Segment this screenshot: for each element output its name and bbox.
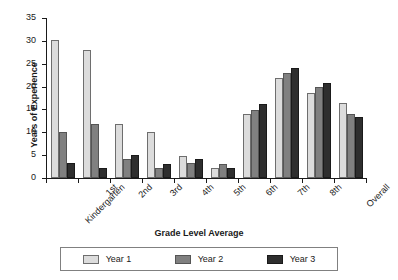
bar: [131, 155, 139, 178]
x-axis-tick-labels: Kindergarten1st2nd3rd4th5th6th7th8thOver…: [46, 182, 366, 234]
bar: [83, 50, 91, 178]
x-axis-tick-label: 8th: [328, 182, 344, 198]
y-axis-tick: 25: [42, 64, 46, 65]
plot-area: 05101520253035: [46, 18, 366, 178]
legend-item[interactable]: Year 2: [175, 254, 224, 264]
x-axis-tick: [366, 179, 367, 183]
x-axis-tick-label: 6th: [264, 182, 280, 198]
bar-group: [339, 18, 363, 178]
x-axis-tick-label: 7th: [296, 182, 312, 198]
bar: [283, 73, 291, 178]
legend-swatch-year-3: [267, 255, 283, 264]
y-axis-tick-label: 10: [16, 126, 36, 136]
bar: [187, 163, 195, 178]
y-axis-tick-label: 25: [16, 58, 36, 68]
bar: [195, 159, 203, 178]
bar-group: [275, 18, 299, 178]
bar: [123, 159, 131, 178]
bar: [115, 124, 123, 178]
bar-chart: Years of Experience 05101520253035 Kinde…: [0, 0, 398, 280]
x-axis-tick-label: Overall: [364, 182, 391, 209]
y-axis-tick-label: 30: [16, 35, 36, 45]
bar-group: [211, 18, 235, 178]
y-axis-tick: 20: [42, 87, 46, 88]
legend-swatch-year-1: [83, 255, 99, 264]
bar: [275, 78, 283, 178]
bar: [99, 168, 107, 179]
bar: [91, 124, 99, 178]
bar: [251, 110, 259, 178]
x-axis-tick-label: 2nd: [136, 182, 154, 200]
bar: [315, 87, 323, 178]
y-axis-tick-label: 20: [16, 81, 36, 91]
legend-item[interactable]: Year 3: [267, 254, 316, 264]
bar: [211, 168, 219, 178]
legend-swatch-year-2: [175, 255, 191, 264]
bar: [147, 132, 155, 178]
bar: [291, 68, 299, 178]
y-axis-tick-label: 15: [16, 103, 36, 113]
y-axis-tick: 35: [42, 18, 46, 19]
x-axis-title: Grade Level Average: [0, 228, 398, 238]
legend: Year 1Year 2Year 3: [60, 247, 338, 271]
legend-item-label: Year 3: [290, 254, 316, 264]
y-axis-tick-label: 5: [16, 149, 36, 159]
legend-item-label: Year 2: [198, 254, 224, 264]
bar: [219, 164, 227, 178]
bar: [67, 163, 75, 178]
bar: [243, 114, 251, 178]
bar: [155, 168, 163, 179]
bar: [323, 83, 331, 178]
y-axis-tick: 10: [42, 132, 46, 133]
bar: [259, 104, 267, 178]
y-axis-tick-label: 0: [16, 172, 36, 182]
bar-group: [115, 18, 139, 178]
y-axis-tick: 5: [42, 155, 46, 156]
bar: [347, 114, 355, 178]
bar-group: [83, 18, 107, 178]
y-axis-tick-label: 35: [16, 12, 36, 22]
bar: [163, 164, 171, 178]
bar: [51, 40, 59, 178]
bar: [179, 156, 187, 178]
x-axis-tick-label: 5th: [232, 182, 248, 198]
bar: [339, 103, 347, 178]
bar-group: [243, 18, 267, 178]
bar: [355, 117, 363, 178]
bar-group: [307, 18, 331, 178]
bar: [59, 132, 67, 178]
bar-group: [179, 18, 203, 178]
x-axis-tick-label: 3rd: [168, 182, 184, 198]
y-axis-tick: 30: [42, 41, 46, 42]
x-axis-tick-label: 4th: [200, 182, 216, 198]
bar: [307, 93, 315, 178]
legend-item-label: Year 1: [106, 254, 132, 264]
bar-groups: [47, 18, 367, 178]
legend-item[interactable]: Year 1: [83, 254, 132, 264]
y-axis-tick: 15: [42, 109, 46, 110]
bar: [227, 168, 235, 178]
bar-group: [51, 18, 75, 178]
bar-group: [147, 18, 171, 178]
